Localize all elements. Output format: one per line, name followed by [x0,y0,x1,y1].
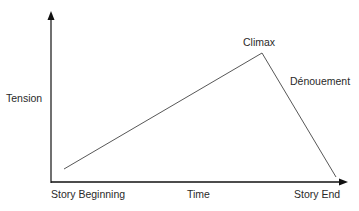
tension-curve [64,53,336,177]
x-axis-arrow-icon [339,179,348,186]
x-axis [51,179,348,186]
denouement-label: Dénouement [290,75,350,87]
climax-label: Climax [243,36,275,48]
story-end-label: Story End [294,188,340,200]
plot-diagram [0,0,359,211]
y-axis-label: Tension [6,92,42,104]
time-label: Time [187,188,210,200]
y-axis-arrow-icon [48,11,55,20]
story-beginning-label: Story Beginning [51,188,125,200]
y-axis [48,11,55,183]
